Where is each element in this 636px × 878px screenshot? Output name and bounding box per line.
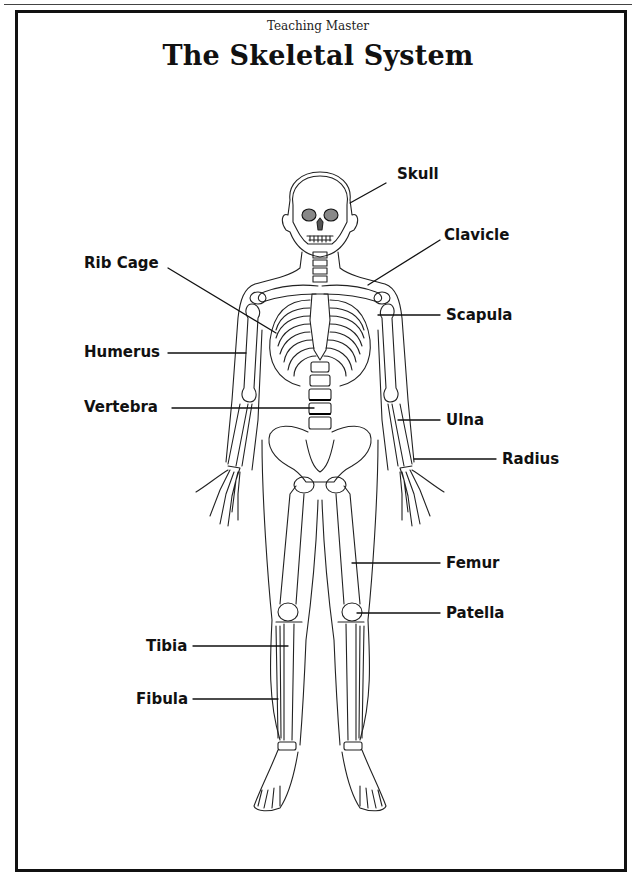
legs (254, 486, 386, 811)
label-femur: Femur (446, 554, 500, 572)
spine (309, 362, 331, 429)
label-scapula: Scapula (446, 306, 513, 324)
label-tibia: Tibia (146, 637, 187, 655)
label-radius: Radius (502, 450, 559, 468)
label-skull: Skull (397, 165, 439, 183)
label-patella: Patella (446, 604, 504, 622)
clavicles (250, 285, 390, 304)
label-ulna: Ulna (446, 411, 484, 429)
skeleton-illustration (0, 0, 636, 878)
label-rib-cage: Rib Cage (84, 254, 159, 272)
pelvis (269, 426, 371, 493)
label-vertebra: Vertebra (84, 398, 158, 416)
label-clavicle: Clavicle (444, 226, 509, 244)
skull (293, 176, 348, 244)
label-fibula: Fibula (136, 690, 188, 708)
label-humerus: Humerus (84, 343, 160, 361)
